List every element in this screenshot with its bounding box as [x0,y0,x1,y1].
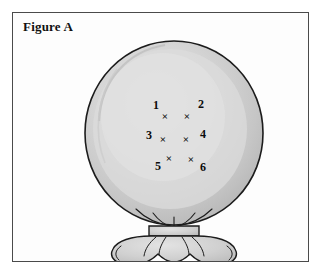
balloon-knot-icon [112,226,237,262]
marker-x-1[interactable]: × [162,111,168,122]
figure-frame: Figure A [12,12,309,262]
marker-x-4[interactable]: × [183,134,189,145]
marker-label-5: 5 [155,160,161,172]
marker-x-2[interactable]: × [184,111,190,122]
figure-page: Figure A [0,0,321,280]
marker-x-5[interactable]: × [166,153,172,164]
marker-label-1: 1 [153,99,159,111]
marker-label-2: 2 [198,98,204,110]
balloon-icon [85,41,263,227]
marker-label-3: 3 [146,129,152,141]
marker-label-6: 6 [200,161,206,173]
marker-label-4: 4 [200,128,206,140]
marker-x-6[interactable]: × [188,154,194,165]
marker-x-3[interactable]: × [160,134,166,145]
